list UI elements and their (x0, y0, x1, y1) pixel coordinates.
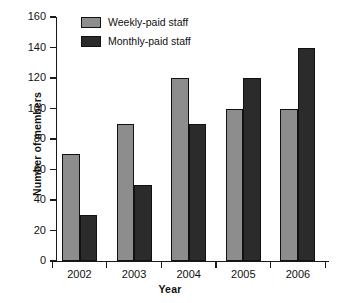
x-axis-title: Year (0, 283, 340, 295)
bar-2004-monthly (189, 124, 207, 261)
bar-2002-weekly (62, 154, 80, 261)
y-tick-label: 20 (0, 224, 46, 236)
x-axis-line (56, 261, 329, 262)
x-tick-label-2006: 2006 (268, 268, 328, 280)
bar-2005-weekly (226, 109, 244, 262)
x-tick-mark (52, 262, 53, 268)
y-axis-line (56, 17, 57, 262)
legend-item-monthly: Monthly-paid staff (81, 33, 191, 49)
y-tick-label: 160 (0, 10, 46, 22)
bar-2002-monthly (80, 215, 98, 261)
bar-2006-weekly (280, 109, 298, 262)
y-tick-label: 80 (0, 132, 46, 144)
legend-swatch-monthly (81, 36, 101, 47)
x-tick-label-2002: 2002 (50, 268, 110, 280)
x-tick-label-2004: 2004 (159, 268, 219, 280)
legend: Weekly-paid staffMonthly-paid staff (81, 14, 191, 52)
y-tick-label: 100 (0, 102, 46, 114)
y-tick-label: 140 (0, 41, 46, 53)
bar-2004-weekly (171, 78, 189, 261)
y-tick-label: 40 (0, 193, 46, 205)
bar-2003-weekly (117, 124, 135, 261)
legend-label: Monthly-paid staff (108, 35, 191, 47)
bar-2005-monthly (243, 78, 261, 261)
bar-2006-monthly (298, 48, 316, 262)
x-tick-label-2003: 2003 (104, 268, 164, 280)
x-tick-mark (325, 262, 326, 268)
y-tick-label: 60 (0, 163, 46, 175)
legend-swatch-weekly (81, 17, 101, 28)
x-tick-label-2005: 2005 (213, 268, 273, 280)
bar-2003-monthly (134, 185, 152, 261)
y-tick-label: 120 (0, 71, 46, 83)
legend-item-weekly: Weekly-paid staff (81, 14, 191, 30)
y-tick-label: 0 (0, 254, 46, 266)
legend-label: Weekly-paid staff (108, 16, 188, 28)
bar-chart: Number of members 020406080100120140160 … (0, 0, 340, 303)
